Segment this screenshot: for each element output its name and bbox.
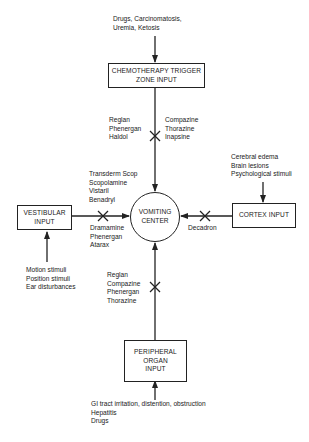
ctz-input-box: CHEMOTHERAPY TRIGGER ZONE INPUT <box>108 63 205 88</box>
ctz-drugs-right: Compazine Thorazine Inapsine <box>165 116 198 142</box>
vestibular-drugs-below: Dramamine Phenergan Atarax <box>90 224 124 250</box>
cortex-stimuli: Cerebral edema Brain lesions Psychologic… <box>231 153 292 179</box>
ctz-stimuli: Drugs, Carcinomatosis, Uremia, Ketosis <box>113 15 182 32</box>
vestibular-stimuli: Motion stimuli Position stimuli Ear dist… <box>26 266 75 292</box>
peripheral-organ-input-box: PERIPHERAL ORGAN INPUT <box>124 340 187 382</box>
cortex-drugs: Decadron <box>188 224 217 233</box>
cortex-input-box: CORTEX INPUT <box>232 203 296 228</box>
peripheral-stimuli: GI tract irritation, distention, obstruc… <box>91 400 206 426</box>
ctz-drugs-left: Reglan Phenergan Haldol <box>109 116 141 142</box>
vomiting-center: VOMITING CENTER <box>130 192 180 242</box>
vestibular-input-box: VESTIBULAR INPUT <box>17 205 72 230</box>
vestibular-drugs-above: Transderm Scop Scopolamine Vistaril Bena… <box>89 170 138 204</box>
peripheral-drugs: Reglan Compazine Phenergan Thorazine <box>107 271 140 305</box>
